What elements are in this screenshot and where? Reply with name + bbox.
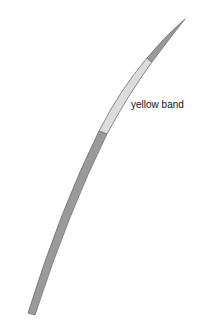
tip-segment xyxy=(147,19,185,62)
stem-illustration xyxy=(0,0,216,335)
yellow-band-label: yellow band xyxy=(131,99,184,110)
yellow-band-segment xyxy=(99,58,152,134)
lower-stem-segment xyxy=(28,131,107,315)
